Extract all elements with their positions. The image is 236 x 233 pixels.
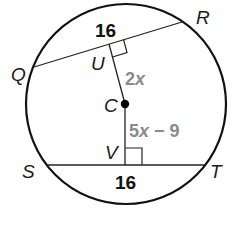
circle-chord-diagram: Q R S T U V C 16 16 2x 5x − 9 [0,0,236,233]
expr-cu: 2x [125,69,146,89]
label-u: U [91,53,105,74]
label-v: V [105,142,120,163]
label-r: R [196,7,210,28]
label-t: T [210,161,223,182]
label-q: Q [11,64,26,85]
label-s: S [22,161,35,182]
label-c: C [104,95,118,116]
center-point [121,100,129,108]
expr-cv: 5x − 9 [129,121,180,141]
right-angle-mark-v [125,148,142,165]
chord-st-length: 16 [115,172,136,193]
chord-qr-length: 16 [95,20,116,41]
